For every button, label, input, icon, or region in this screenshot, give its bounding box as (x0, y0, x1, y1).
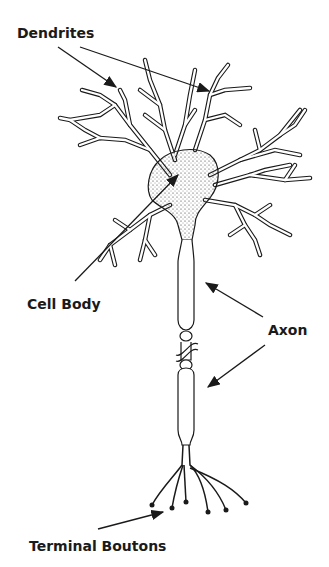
axon (176, 240, 198, 445)
label-terminal-boutons: Terminal Boutons (29, 538, 166, 554)
bouton-terminals (150, 500, 249, 515)
cell-body-arrow (75, 175, 178, 281)
terminal-boutons-arrow (98, 512, 163, 529)
terminal-branches (152, 445, 246, 512)
axon-arrow-lower (208, 345, 265, 387)
axon-arrow-upper (206, 283, 263, 317)
dendrites-arrow-right (80, 47, 209, 91)
neuron-illustration (0, 0, 329, 567)
label-axon: Axon (268, 322, 307, 338)
label-cell-body: Cell Body (27, 296, 101, 312)
dendrites-arrow-left (58, 47, 116, 87)
neuron-diagram: Dendrites Cell Body Axon Terminal Bouton… (0, 0, 329, 567)
label-dendrites: Dendrites (17, 25, 94, 41)
